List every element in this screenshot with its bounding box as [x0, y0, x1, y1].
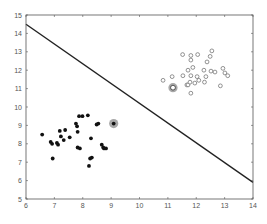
- filled-point: [51, 157, 55, 161]
- x-tick-label: 8: [81, 202, 85, 209]
- open-point: [195, 75, 199, 79]
- open-point: [181, 53, 185, 57]
- filled-point: [87, 164, 91, 168]
- y-tick-label: 5: [18, 196, 22, 203]
- filled-point: [76, 130, 80, 134]
- open-point: [193, 81, 197, 85]
- y-tick-label: 11: [15, 85, 22, 92]
- x-tick-label: 7: [52, 202, 56, 209]
- axes-frame: [26, 15, 253, 199]
- filled-point: [88, 157, 92, 161]
- filled-point: [89, 136, 93, 140]
- x-tick-label: 13: [221, 202, 229, 209]
- open-point: [189, 74, 193, 78]
- y-tick-label: 12: [14, 67, 22, 74]
- y-tick-label: 15: [14, 12, 22, 19]
- axis-ticks: [26, 15, 253, 199]
- filled-point: [63, 128, 67, 132]
- open-point: [189, 54, 193, 58]
- open-point: [189, 91, 193, 95]
- decision-boundary-line: [26, 24, 253, 182]
- highlighted-filled-point: [112, 122, 116, 126]
- scatter-chart: 67891011121314 56789101112131415: [0, 0, 267, 224]
- open-point: [202, 68, 206, 72]
- data-points: [40, 49, 229, 168]
- highlighted-open-point: [171, 85, 176, 90]
- filled-point: [104, 147, 108, 151]
- open-point: [209, 69, 213, 73]
- open-point: [181, 74, 185, 78]
- filled-point: [58, 129, 62, 133]
- x-tick-label: 12: [192, 202, 200, 209]
- y-axis-tick-labels: 56789101112131415: [14, 12, 22, 203]
- y-tick-label: 6: [18, 177, 22, 184]
- filled-point: [81, 114, 85, 118]
- open-point: [203, 80, 207, 84]
- boundary-line: [26, 24, 253, 182]
- filled-point: [75, 124, 79, 128]
- open-point: [189, 58, 193, 62]
- filled-point: [56, 143, 60, 147]
- x-tick-label: 11: [164, 202, 171, 209]
- y-tick-label: 8: [18, 140, 22, 147]
- y-tick-label: 13: [14, 48, 22, 55]
- open-point: [170, 75, 174, 79]
- filled-point: [40, 133, 44, 137]
- open-point: [221, 66, 225, 70]
- open-point: [161, 78, 165, 82]
- x-tick-label: 14: [249, 202, 257, 209]
- y-tick-label: 7: [18, 159, 22, 166]
- open-point: [210, 49, 214, 53]
- filled-point: [59, 135, 63, 139]
- open-point: [186, 68, 190, 72]
- open-point: [218, 84, 222, 88]
- filled-point: [78, 147, 82, 151]
- open-point: [208, 55, 212, 59]
- y-tick-label: 10: [14, 104, 22, 111]
- open-point: [213, 70, 217, 74]
- open-point: [188, 80, 192, 84]
- x-tick-label: 6: [24, 202, 28, 209]
- open-point: [204, 75, 208, 79]
- filled-point: [96, 122, 100, 126]
- open-point: [196, 53, 200, 57]
- y-tick-label: 14: [14, 30, 22, 37]
- open-point: [191, 66, 195, 70]
- open-point: [197, 78, 201, 82]
- filled-point: [68, 135, 72, 139]
- x-axis-tick-labels: 67891011121314: [24, 202, 257, 209]
- x-tick-label: 9: [109, 202, 113, 209]
- y-tick-label: 9: [18, 122, 22, 129]
- x-tick-label: 10: [136, 202, 144, 209]
- open-point: [205, 60, 209, 64]
- open-point: [226, 74, 230, 78]
- filled-point: [62, 138, 66, 142]
- filled-point: [77, 114, 81, 118]
- filled-point: [86, 113, 90, 117]
- filled-point: [50, 142, 54, 146]
